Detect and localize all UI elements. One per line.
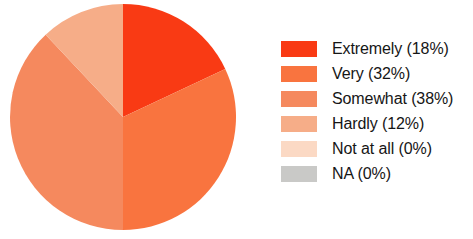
legend-item-extremely[interactable]: Extremely (18%) (281, 36, 473, 61)
pie-svg (0, 0, 260, 239)
legend-label-somewhat: Somewhat (38%) (332, 91, 453, 107)
legend-label-na: NA (0%) (332, 166, 391, 182)
legend-label-extremely: Extremely (18%) (332, 41, 449, 57)
legend-swatch-not-at-all (281, 141, 317, 157)
legend-swatch-very (281, 66, 317, 82)
legend-item-somewhat[interactable]: Somewhat (38%) (281, 86, 473, 111)
legend-label-very: Very (32%) (332, 66, 410, 82)
legend-label-not-at-all: Not at all (0%) (332, 141, 432, 157)
legend-swatch-hardly (281, 116, 317, 132)
chart-legend: Extremely (18%) Very (32%) Somewhat (38%… (281, 36, 473, 186)
legend-label-hardly: Hardly (12%) (332, 116, 424, 132)
legend-swatch-somewhat (281, 91, 317, 107)
legend-swatch-extremely (281, 41, 317, 57)
legend-item-not-at-all[interactable]: Not at all (0%) (281, 136, 473, 161)
pie-plot-area (0, 0, 260, 239)
legend-item-na[interactable]: NA (0%) (281, 161, 473, 186)
legend-swatch-na (281, 166, 317, 182)
pie-chart: Extremely (18%) Very (32%) Somewhat (38%… (0, 0, 473, 239)
legend-item-hardly[interactable]: Hardly (12%) (281, 111, 473, 136)
legend-item-very[interactable]: Very (32%) (281, 61, 473, 86)
